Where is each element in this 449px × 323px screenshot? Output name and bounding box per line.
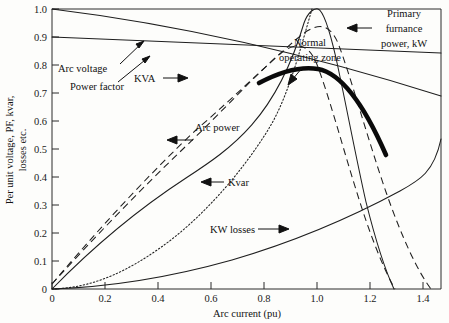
y-tick-label: 0.2 (34, 228, 47, 239)
y-tick-labels: 1.0 0.9 0.8 0.7 0.6 0.5 0.4 0.3 0.2 0.1 … (34, 4, 48, 295)
annotation-power-factor-label: Power factor (70, 81, 124, 92)
arrowhead-icon (178, 74, 188, 82)
y-axis-title-line1: Per unit voltage, PF, kvar, (4, 96, 15, 205)
x-tick-label: 1.2 (363, 293, 376, 304)
arrowhead-icon (279, 225, 289, 233)
x-tick-label: 0.4 (151, 293, 165, 304)
annotation-kw-losses: KW losses (210, 224, 289, 235)
x-tick-label: 0.6 (204, 293, 217, 304)
y-tick-label: 0.5 (34, 144, 47, 155)
chart-page: 1.0 0.9 0.8 0.7 0.6 0.5 0.4 0.3 0.2 0.1 … (0, 0, 449, 323)
curve-kva (52, 27, 431, 289)
annotation-pfp-label-line1: Primary (387, 8, 422, 19)
annotation-primary-furnance-power: Primary furnance power, kW (347, 8, 427, 49)
annotation-arc-power-label: Arc power (195, 122, 240, 133)
annotation-kva: KVA (134, 73, 188, 84)
y-tick-label: 0.4 (34, 172, 48, 183)
annotation-normal-operating-zone: Normal operating zone (279, 37, 341, 85)
x-tick-label: 1.0 (310, 293, 323, 304)
y-axis-title-line2: losses etc. (17, 129, 28, 172)
y-tick-label: 0.8 (34, 60, 47, 71)
y-axis-ticks (52, 9, 59, 289)
y-tick-label: 1.0 (34, 4, 47, 15)
annotation-kva-label: KVA (134, 73, 156, 84)
arc-furnace-characteristic-chart: 1.0 0.9 0.8 0.7 0.6 0.5 0.4 0.3 0.2 0.1 … (0, 0, 449, 323)
annotation-arc-voltage-label: Arc voltage (58, 63, 108, 74)
arrowhead-icon (201, 178, 211, 186)
annotation-kvar: Kvar (201, 177, 249, 188)
annotation-pfp-label-line2: furnance (386, 23, 423, 34)
arrowhead-icon (167, 136, 177, 144)
y-tick-label: 0 (42, 284, 47, 295)
y-tick-label: 0.9 (34, 32, 47, 43)
x-tick-label: 0 (49, 293, 54, 304)
annotation-kvar-label: Kvar (228, 177, 249, 188)
x-axis-ticks (52, 282, 423, 289)
annotation-arc-voltage: Arc voltage (58, 41, 144, 74)
annotation-pfp-label-line3: power, kW (381, 38, 427, 49)
y-tick-label: 0.1 (34, 256, 47, 267)
curve-primary-furnance-power (52, 9, 394, 289)
y-tick-label: 0.3 (34, 200, 47, 211)
y-tick-label: 0.6 (34, 116, 47, 127)
annotation-arc-power: Arc power (167, 122, 240, 144)
x-tick-label: 0.8 (257, 293, 270, 304)
x-axis-title: Arc current (pu) (213, 308, 282, 320)
annotation-kw-losses-label: KW losses (210, 224, 255, 235)
y-tick-label: 0.7 (34, 88, 47, 99)
curve-kw-losses (52, 139, 441, 289)
x-tick-labels: 0 0.2 0.4 0.6 0.8 1.0 1.2 1.4 (49, 293, 430, 304)
annotation-noz-label-line2: operating zone (279, 52, 341, 63)
x-tick-label: 1.4 (416, 293, 430, 304)
arrowhead-icon (347, 24, 357, 32)
annotation-noz-label-line1: Normal (294, 37, 326, 48)
x-tick-label: 0.2 (98, 293, 111, 304)
